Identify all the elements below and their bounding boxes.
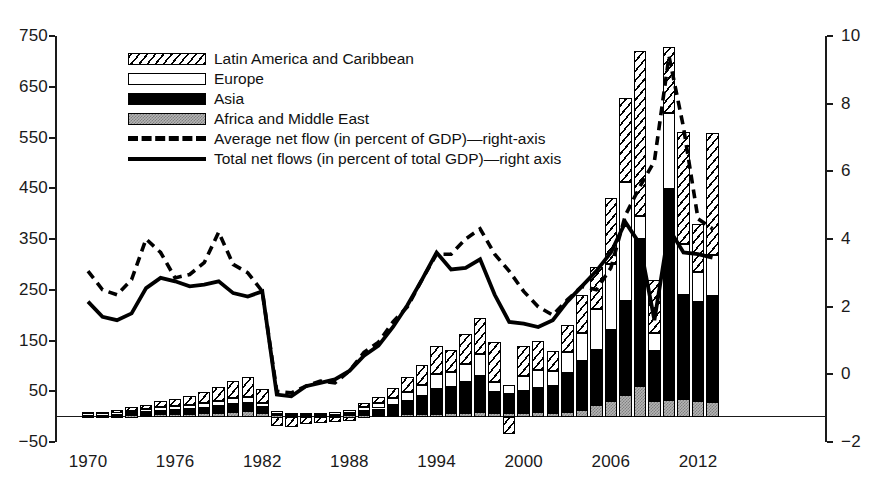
bar-segment-europe	[227, 398, 240, 404]
bar-segment-latin-america	[183, 396, 196, 405]
bar-segment-latin-america	[96, 412, 109, 415]
legend-label-europe: Europe	[214, 70, 264, 88]
legend-line-dashed-icon	[128, 136, 206, 141]
bar-segment-latin-america	[706, 133, 719, 255]
bar-segment-africa-middle-east	[561, 412, 574, 417]
bar-segment-asia	[430, 389, 443, 413]
bar-segment-africa-middle-east	[517, 413, 530, 417]
bar-segment-africa-middle-east	[677, 399, 690, 417]
bar-segment-latin-america	[445, 350, 458, 373]
left-axis-tick-label: 50	[0, 381, 48, 401]
bar-segment-europe	[169, 406, 182, 410]
bar-segment-asia	[561, 373, 574, 411]
right-axis-tick	[827, 35, 833, 37]
bar-segment-europe	[140, 409, 153, 412]
bar-segment-africa-middle-east	[169, 414, 182, 417]
bar-segment-africa-middle-east	[154, 414, 167, 417]
bar-segment-latin-america	[285, 417, 298, 427]
bar-segment-asia	[358, 411, 371, 415]
bar-segment-asia	[634, 239, 647, 386]
bar-segment-latin-america	[517, 346, 530, 376]
bar-group	[692, 36, 705, 442]
bar-segment-latin-america	[648, 280, 661, 333]
left-axis-tick	[49, 289, 55, 291]
bar-segment-latin-america	[619, 98, 632, 182]
bar-group	[561, 36, 574, 442]
bar-segment-latin-america	[634, 51, 647, 216]
bar-segment-europe	[430, 374, 443, 389]
bar-segment-latin-america	[169, 399, 182, 407]
bar-segment-latin-america	[329, 417, 342, 422]
bar-segment-asia	[692, 302, 705, 401]
bar-segment-asia	[343, 413, 356, 416]
left-axis-tick	[49, 238, 55, 240]
bar-segment-asia	[648, 351, 661, 402]
bar-segment-asia	[183, 409, 196, 414]
legend-swatch-asia-icon	[128, 93, 206, 105]
left-axis-tick-label: 550	[0, 128, 48, 148]
bar-segment-asia	[459, 382, 472, 412]
bar-segment-europe	[387, 398, 400, 405]
bar-segment-africa-middle-east	[372, 415, 385, 418]
bar-segment-europe	[663, 113, 676, 189]
legend-label-total-net-flows: Total net flows (in percent of total GDP…	[214, 150, 561, 168]
bar-segment-europe	[183, 405, 196, 409]
bar-segment-asia	[605, 330, 618, 401]
x-axis-tick-label: 1970	[54, 452, 122, 472]
bar-segment-europe	[648, 333, 661, 351]
bar-segment-europe	[605, 264, 618, 330]
bar-group	[96, 36, 109, 442]
bar-segment-asia	[663, 189, 676, 400]
bar-group	[605, 36, 618, 442]
bar-segment-asia	[547, 386, 560, 412]
bar-segment-latin-america	[430, 346, 443, 374]
bar-segment-asia	[212, 406, 225, 412]
bar-segment-africa-middle-east	[692, 401, 705, 416]
bar-segment-latin-america	[198, 392, 211, 403]
bar-segment-africa-middle-east	[358, 415, 371, 418]
right-axis-tick-label: 6	[841, 161, 883, 181]
bar-segment-latin-america	[663, 47, 676, 113]
bar-segment-africa-middle-east	[416, 414, 429, 417]
x-axis-tick-label: 1988	[315, 452, 383, 472]
right-axis-tick-label: 8	[841, 94, 883, 114]
right-axis-tick	[827, 373, 833, 375]
bar-segment-latin-america	[503, 417, 516, 435]
bar-segment-europe	[314, 413, 327, 416]
bar-segment-europe	[634, 216, 647, 239]
bar-segment-latin-america	[474, 318, 487, 355]
left-axis-tick	[49, 340, 55, 342]
bar-group	[648, 36, 661, 442]
bar-segment-asia	[445, 387, 458, 413]
legend-label-asia: Asia	[214, 90, 244, 108]
left-axis-tick-label: −50	[0, 432, 48, 452]
left-axis-tick-label: 750	[0, 26, 48, 46]
bar-segment-asia	[140, 412, 153, 415]
bar-segment-europe	[474, 354, 487, 375]
bar-segment-europe	[677, 244, 690, 295]
bar-segment-asia	[503, 394, 516, 413]
right-axis-tick-label: −2	[841, 432, 883, 452]
bar-segment-asia	[227, 404, 240, 411]
bar-segment-africa-middle-east	[619, 395, 632, 416]
bar-segment-europe	[459, 364, 472, 382]
bar-group	[82, 36, 95, 442]
bar-segment-africa-middle-east	[648, 401, 661, 416]
bar-segment-asia	[169, 410, 182, 414]
left-axis-tick	[49, 441, 55, 443]
chart-legend: Latin America and Caribbean Europe Asia …	[128, 50, 558, 170]
bar-segment-africa-middle-east	[125, 415, 138, 418]
bar-segment-europe	[198, 403, 211, 408]
bar-segment-latin-america	[590, 267, 603, 309]
legend-swatch-latam-icon	[128, 53, 206, 65]
bar-segment-europe	[445, 372, 458, 386]
bar-segment-africa-middle-east	[576, 410, 589, 417]
bar-segment-africa-middle-east	[474, 412, 487, 417]
bar-segment-europe	[401, 392, 414, 401]
bar-segment-europe	[271, 411, 284, 414]
bar-segment-asia	[242, 403, 255, 411]
bar-segment-latin-america	[372, 397, 385, 403]
bar-segment-africa-middle-east	[532, 412, 545, 417]
right-axis-tick-label: 0	[841, 364, 883, 384]
x-axis-tick-label: 2012	[664, 452, 732, 472]
